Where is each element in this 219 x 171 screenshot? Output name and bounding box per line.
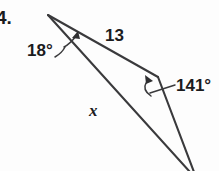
angle-arrow-right-icon	[145, 75, 153, 84]
angle-label-top: 18°	[27, 41, 53, 60]
problem-number: 4.	[0, 7, 12, 28]
side-label-top: 13	[105, 26, 124, 45]
side-label-unknown: x	[88, 101, 98, 120]
leader-line-top	[55, 47, 65, 57]
angle-label-right: 141°	[176, 76, 211, 95]
geometry-diagram: 18° 13 141° x 4.	[0, 0, 219, 171]
angle-arc-right	[145, 83, 151, 96]
geometry-figure-canvas: 18° 13 141° x 4.	[0, 0, 219, 171]
